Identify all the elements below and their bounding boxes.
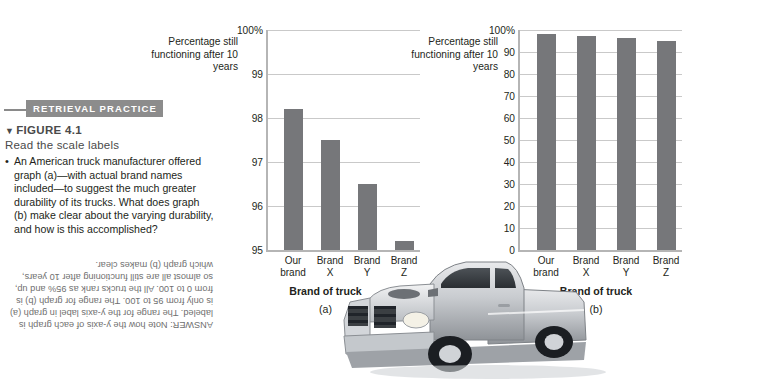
x-tick-line: Z (663, 267, 669, 278)
figure-question: •An American truck manufacturer offered … (5, 155, 214, 237)
bar-brand-y (617, 38, 636, 250)
x-tick-line: Our (285, 255, 302, 266)
y-axis-tick-label: 98 (252, 113, 263, 124)
pickup-truck-image (338, 244, 638, 379)
truck-photo (338, 244, 638, 379)
figure-number: FIGURE 4.1 (16, 124, 82, 136)
chart-a-plot-area: 9596979899100%OurbrandBrandXBrandYBrandZ (266, 30, 420, 252)
figure-answer-inverted: ANSWER: Note how the y-axis of each grap… (3, 258, 213, 331)
chart-a-y-axis-title: Percentage still functioning after 10 ye… (148, 36, 238, 74)
y-axis-tick-label: 97 (252, 157, 263, 168)
y-axis-tick-label: 100% (489, 25, 515, 36)
bar-brand-x (577, 36, 596, 251)
y-axis-tick-label: 96 (252, 201, 263, 212)
retrieval-practice-block: RETRIEVAL PRACTICE ▼FIGURE 4.1 Read the … (0, 100, 216, 237)
retrieval-practice-banner: RETRIEVAL PRACTICE (4, 100, 216, 118)
figure-page: RETRIEVAL PRACTICE ▼FIGURE 4.1 Read the … (0, 0, 759, 379)
gridline (268, 74, 420, 75)
x-tick-line: Brand (653, 255, 680, 266)
y-axis-tick-label: 40 (504, 157, 515, 168)
bar-brand-y (358, 184, 377, 250)
bullet-icon: • (5, 155, 9, 169)
chart-b-plot-area: 0102030405060708090100%OurbrandBrandXBra… (518, 30, 682, 252)
bar-brand-x (321, 140, 340, 250)
y-axis-tick-label: 20 (504, 201, 515, 212)
bar-our-brand (284, 109, 303, 250)
y-axis-tick-label: 70 (504, 91, 515, 102)
y-axis-tick-label: 90 (504, 47, 515, 58)
bar-our-brand (537, 34, 556, 250)
bar-brand-z (657, 41, 676, 250)
x-tick-line: X (327, 267, 334, 278)
y-axis-tick-label: 99 (252, 69, 263, 80)
y-axis-tick-label: 10 (504, 223, 515, 234)
y-axis-tick-label: 80 (504, 69, 515, 80)
figure-question-text: An American truck manufacturer offered g… (14, 155, 213, 235)
gridline (268, 30, 420, 31)
retrieval-practice-label: RETRIEVAL PRACTICE (26, 100, 163, 117)
y-axis-tick-label: 60 (504, 113, 515, 124)
figure-subtitle: Read the scale labels (5, 138, 216, 153)
gridline (520, 30, 682, 31)
y-axis-tick-label: 100% (237, 25, 263, 36)
y-axis-tick-label: 30 (504, 179, 515, 190)
triangle-down-icon: ▼ (5, 126, 14, 136)
y-axis-tick-label: 95 (252, 245, 263, 256)
y-axis-tick-label: 50 (504, 135, 515, 146)
chart-b-y-axis-title: Percentage still functioning after 10 ye… (408, 36, 498, 74)
banner-rule-left (4, 109, 26, 111)
x-axis-tick-label: BrandZ (636, 255, 696, 279)
figure-heading: ▼FIGURE 4.1 (5, 123, 216, 138)
